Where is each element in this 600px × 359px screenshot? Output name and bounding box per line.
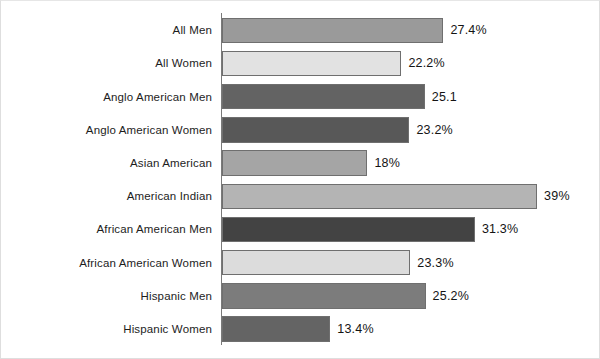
bar-value-label: 18% (374, 146, 400, 181)
bar-track: 23.2% (222, 113, 600, 148)
bar-value-label: 25.1 (432, 79, 457, 114)
bar-value-label: 31.3% (482, 212, 518, 247)
category-label: African American Men (0, 212, 212, 247)
category-label: All Women (0, 46, 212, 81)
bar-track: 31.3% (222, 212, 600, 247)
bar[interactable] (222, 217, 475, 243)
bar[interactable] (222, 51, 401, 77)
bar-row: African American Women 23.3% (0, 245, 600, 280)
bar-value-label: 27.4% (450, 13, 486, 48)
bar-track: 39% (222, 179, 600, 214)
bar[interactable] (222, 117, 409, 143)
bar-row: Anglo American Women 23.2% (0, 113, 600, 148)
bar[interactable] (222, 250, 410, 276)
bar-row: All Women 22.2% (0, 46, 600, 81)
bar-row: American Indian 39% (0, 179, 600, 214)
bar-value-label: 22.2% (408, 46, 444, 81)
category-label: Hispanic Women (0, 312, 212, 347)
bar-track: 27.4% (222, 13, 600, 48)
chart-plot-area: All Men 27.4% All Women 22.2% Anglo Amer… (0, 0, 600, 359)
bar-value-label: 25.2% (433, 279, 469, 314)
bar-row: Hispanic Women 13.4% (0, 312, 600, 347)
bar-value-label: 23.2% (416, 113, 452, 148)
bar[interactable] (222, 316, 330, 342)
bar-row: Anglo American Men 25.1 (0, 79, 600, 114)
bar[interactable] (222, 18, 443, 44)
bar[interactable] (222, 184, 537, 210)
bar-track: 23.3% (222, 245, 600, 280)
bar[interactable] (222, 283, 426, 309)
bar-row: Hispanic Men 25.2% (0, 279, 600, 314)
bar-row: African American Men 31.3% (0, 212, 600, 247)
category-label: Hispanic Men (0, 279, 212, 314)
bar-track: 25.2% (222, 279, 600, 314)
bar[interactable] (222, 84, 425, 110)
bar-track: 13.4% (222, 312, 600, 347)
category-label: All Men (0, 13, 212, 48)
category-label: Anglo American Men (0, 79, 212, 114)
category-label: American Indian (0, 179, 212, 214)
bar-value-label: 39% (544, 179, 570, 214)
bar[interactable] (222, 150, 367, 176)
bar-track: 25.1 (222, 79, 600, 114)
category-label: Asian American (0, 146, 212, 181)
bar-chart-screenshot: All Men 27.4% All Women 22.2% Anglo Amer… (0, 0, 600, 359)
bar-track: 18% (222, 146, 600, 181)
category-label: Anglo American Women (0, 113, 212, 148)
bar-row: All Men 27.4% (0, 13, 600, 48)
bar-value-label: 23.3% (417, 245, 453, 280)
bar-track: 22.2% (222, 46, 600, 81)
bar-row: Asian American 18% (0, 146, 600, 181)
category-label: African American Women (0, 245, 212, 280)
bar-value-label: 13.4% (337, 312, 373, 347)
